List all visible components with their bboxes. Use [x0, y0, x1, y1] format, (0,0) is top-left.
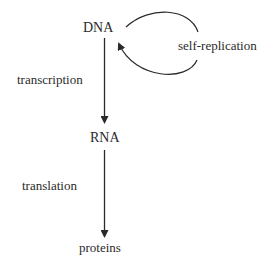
node-rna: RNA [90, 131, 120, 145]
edge-label-transcription: transcription [17, 73, 83, 87]
node-dna: DNA [83, 21, 113, 35]
edge-label-self-replication: self-replication [178, 39, 257, 53]
edge-label-translation: translation [22, 179, 77, 193]
node-proteins: proteins [79, 241, 121, 255]
